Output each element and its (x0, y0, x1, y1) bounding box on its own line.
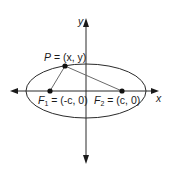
focus-2-label: F2 = (c, 0) (94, 94, 140, 107)
focus-1-label: F1 = (-c, 0) (38, 94, 88, 107)
y-axis-up-arrow-icon (83, 18, 89, 27)
point-p (62, 63, 67, 68)
segment-p-f2 (65, 66, 122, 91)
focus-1-eq: = (-c, 0) (48, 94, 87, 106)
point-p-eq: = (x, y) (51, 51, 86, 63)
x-axis-left-arrow-icon (10, 88, 18, 94)
point-p-label: P = (x, y) (44, 51, 86, 63)
point-p-name: P (44, 51, 51, 63)
focus-2-eq: = (c, 0) (104, 94, 140, 106)
segment-p-f1 (50, 66, 65, 91)
y-axis-down-arrow-icon (83, 155, 89, 164)
point-f2 (119, 88, 124, 93)
ellipse-diagram: y x P = (x, y) F1 = (-c, 0) F2 = (c, 0) (0, 0, 171, 175)
x-axis-label: x (155, 92, 162, 104)
y-axis-label: y (77, 15, 84, 27)
point-f1 (47, 88, 52, 93)
